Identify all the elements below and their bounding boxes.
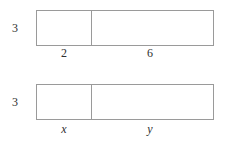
segment-label-right-numeric: 6: [132, 47, 168, 59]
segment-label-left-variable: x: [46, 123, 82, 135]
height-label-bottom: 3: [2, 96, 18, 108]
rectangle-numeric: [36, 10, 214, 46]
rectangle-variable: [36, 84, 214, 120]
height-label-top: 3: [2, 22, 18, 34]
segment-label-right-variable: y: [132, 123, 168, 135]
rectangle-variable-divider: [91, 84, 92, 120]
rectangle-numeric-divider: [91, 10, 92, 46]
segment-label-left-numeric: 2: [46, 47, 82, 59]
diagram-canvas: 3 2 6 3 x y: [0, 0, 226, 156]
